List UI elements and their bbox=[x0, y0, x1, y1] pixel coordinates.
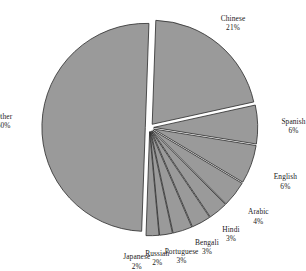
pie-slice-label-value: 6% bbox=[274, 181, 297, 190]
pie-slice-label-value: 3% bbox=[165, 256, 199, 265]
pie-slice-label-value: 6% bbox=[281, 126, 305, 135]
pie-slice-label-value: 50% bbox=[0, 121, 12, 130]
pie-slice-label: Other50% bbox=[0, 112, 12, 130]
pie-slice-label-value: 3% bbox=[222, 234, 239, 243]
pie-slice-label-name: Arabic bbox=[248, 207, 269, 216]
pie-slice-label-name: Hindi bbox=[222, 225, 239, 234]
pie-slice bbox=[42, 23, 149, 231]
pie-slice-label-value: 4% bbox=[248, 216, 269, 225]
pie-slice-label-name: Other bbox=[0, 112, 12, 121]
pie-slice-label-name: Japanese bbox=[123, 252, 150, 261]
pie-slice-label-name: Bengali bbox=[195, 238, 219, 247]
pie-slice-label-value: 3% bbox=[195, 247, 219, 256]
pie-slice-label: Chinese21% bbox=[221, 14, 246, 32]
pie-slice-label-name: English bbox=[274, 172, 297, 181]
pie-slice-group bbox=[42, 20, 258, 235]
pie-slice-label: Japanese2% bbox=[123, 252, 150, 270]
pie-slice-label-name: Chinese bbox=[221, 14, 246, 23]
pie-slice-label-name: Portuguese bbox=[165, 247, 199, 256]
pie-slice-label: Bengali3% bbox=[195, 238, 219, 256]
pie-slice-label: English6% bbox=[274, 172, 297, 190]
pie-slice-label: Arabic4% bbox=[248, 207, 269, 225]
pie-slice-label-value: 21% bbox=[221, 23, 246, 32]
pie-slice-label: Portuguese3% bbox=[165, 247, 199, 265]
pie-slice-label-value: 2% bbox=[123, 261, 150, 270]
pie-slice-label-name: Spanish bbox=[281, 117, 305, 126]
pie-slice-label: Spanish6% bbox=[281, 117, 305, 135]
pie-slice-label: Hindi3% bbox=[222, 225, 239, 243]
